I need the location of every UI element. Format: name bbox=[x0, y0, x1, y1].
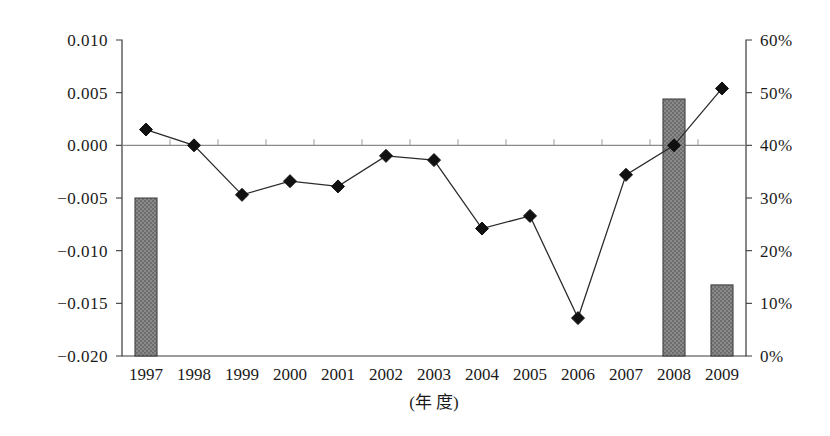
right-axis-tick-label: 60% bbox=[760, 31, 793, 50]
left-axis-tick-label: 0.010 bbox=[67, 31, 108, 50]
right-axis-tick-label: 0% bbox=[760, 347, 784, 366]
left-axis-tick-label: −0.020 bbox=[57, 347, 108, 366]
x-axis-tick-label: 2007 bbox=[609, 365, 644, 384]
x-axis-tick-label: 2000 bbox=[273, 365, 307, 384]
right-axis-tick-label: 20% bbox=[760, 242, 793, 261]
right-axis-tick-label: 50% bbox=[760, 84, 793, 103]
chart-canvas: 0.0100.0050.000−0.005−0.010−0.015−0.0206… bbox=[0, 0, 830, 436]
bar bbox=[663, 99, 685, 356]
right-axis-tick-label: 40% bbox=[760, 136, 793, 155]
left-axis-tick-label: 0.005 bbox=[67, 84, 108, 103]
x-axis-tick-label: 2003 bbox=[417, 365, 451, 384]
bar bbox=[135, 198, 157, 356]
left-axis-tick-label: −0.005 bbox=[57, 189, 108, 208]
left-axis-tick-label: 0.000 bbox=[67, 136, 108, 155]
x-axis-tick-label: 2008 bbox=[657, 365, 691, 384]
x-axis-title: (年 度) bbox=[409, 393, 459, 412]
bar bbox=[711, 285, 733, 356]
x-axis-tick-label: 1997 bbox=[129, 365, 164, 384]
x-axis-tick-label: 2006 bbox=[561, 365, 595, 384]
x-axis-tick-label: 1999 bbox=[225, 365, 259, 384]
right-axis-tick-label: 30% bbox=[760, 189, 793, 208]
left-axis-tick-label: −0.010 bbox=[57, 242, 108, 261]
x-axis-tick-label: 2004 bbox=[465, 365, 500, 384]
x-axis-tick-label: 2001 bbox=[321, 365, 355, 384]
right-axis-tick-label: 10% bbox=[760, 294, 793, 313]
x-axis-tick-label: 1998 bbox=[177, 365, 211, 384]
x-axis-tick-label: 2002 bbox=[369, 365, 403, 384]
left-axis-tick-label: −0.015 bbox=[57, 294, 108, 313]
x-axis-tick-label: 2009 bbox=[705, 365, 739, 384]
x-axis-tick-label: 2005 bbox=[513, 365, 547, 384]
chart-root: 0.0100.0050.000−0.005−0.010−0.015−0.0206… bbox=[0, 0, 830, 436]
